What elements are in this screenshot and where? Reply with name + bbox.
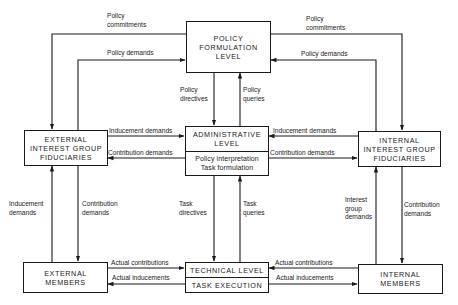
label-ext-inducement-demands: Inducement demands — [9, 200, 43, 217]
label-actual-contributions-right: Actual contributions — [275, 259, 333, 268]
node-internal-interest-group-fiduciaries: INTERNAL INTEREST GROUP FIDUCIARIES — [358, 131, 441, 167]
label-task-queries: Task queries — [243, 200, 265, 217]
label-policy-queries: Policy queries — [243, 86, 265, 103]
node-subtitle: Policy interpretation Task formulation — [186, 151, 268, 176]
node-label: INTERNAL MEMBERS — [359, 265, 442, 293]
node-policy-formulation-level: POLICY FORMULATION LEVEL — [186, 21, 271, 73]
label-policy-commitments-left: Policy commitments — [107, 12, 146, 29]
label-actual-inducements-right: Actual inducements — [276, 274, 334, 283]
edge-policy-commitments-right — [270, 34, 402, 130]
edge-policy-demands-right — [271, 60, 376, 131]
label-policy-demands-left: Policy demands — [107, 49, 154, 58]
node-external-members: EXTERNAL MEMBERS — [23, 262, 108, 293]
node-title: ADMINISTRATIVE LEVEL — [186, 127, 268, 151]
node-external-interest-group-fiduciaries: EXTERNAL INTEREST GROUP FIDUCIARIES — [24, 130, 108, 166]
label-ext-contribution-demands: Contribution demands — [82, 200, 118, 217]
edge-policy-demands-left — [78, 60, 185, 130]
node-label: EXTERNAL INTEREST GROUP FIDUCIARIES — [25, 131, 107, 165]
node-label: EXTERNAL MEMBERS — [24, 263, 107, 292]
node-technical-level: TECHNICAL LEVEL TASK EXECUTION — [185, 262, 269, 293]
node-subtitle: TASK EXECUTION — [186, 277, 268, 292]
node-title: TECHNICAL LEVEL — [186, 263, 268, 277]
label-inducement-demands-left: Inducement demands — [109, 127, 172, 136]
label-int-contribution-demands: Contribution demands — [404, 201, 440, 218]
label-task-directives: Task directives — [179, 200, 207, 217]
label-policy-commitments-right: Policy commitments — [306, 15, 345, 32]
label-int-interest-group-demands: Interest group demands — [345, 196, 372, 222]
node-administrative-level: ADMINISTRATIVE LEVEL Policy interpretati… — [185, 126, 269, 176]
label-actual-inducements-left: Actual inducements — [112, 274, 170, 283]
node-internal-members: INTERNAL MEMBERS — [358, 264, 443, 294]
label-contribution-demands-right: Contribution demands — [270, 149, 335, 158]
label-inducement-demands-right: Inducement demands — [273, 127, 336, 136]
node-label: POLICY FORMULATION LEVEL — [187, 22, 270, 72]
label-contribution-demands-left: Contribution demands — [108, 149, 173, 158]
label-policy-directives: Policy directives — [180, 86, 208, 103]
label-actual-contributions-left: Actual contributions — [111, 259, 169, 268]
node-label: INTERNAL INTEREST GROUP FIDUCIARIES — [359, 132, 440, 166]
label-policy-demands-right: Policy demands — [301, 50, 348, 59]
